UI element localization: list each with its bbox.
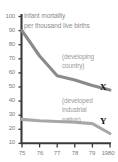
y-tick-label-100: 100 — [0, 13, 15, 19]
y-tick-label-50: 50 — [0, 83, 15, 89]
chart-title-line-2: per thousand live births — [24, 21, 90, 31]
series-x-annotation: (developing country) — [62, 52, 94, 71]
y-tick-label-60: 60 — [0, 69, 15, 75]
x-tick-label-77: 77 — [49, 150, 65, 156]
x-tick-label-75: 75 — [14, 150, 30, 156]
y-tick-label-40: 40 — [0, 97, 15, 103]
y-tick-label-80: 80 — [0, 41, 15, 47]
y-tick-label-20: 20 — [0, 125, 15, 131]
x-tick-label-1980: 1980 — [98, 150, 118, 156]
series-x-annotation-line-1: (developing — [62, 52, 94, 61]
series-y-annotation-line-1: (developed — [62, 96, 93, 105]
chart-title: infant mortality per thousand live birth… — [24, 11, 90, 31]
series-x-annotation-line-2: country) — [62, 61, 94, 70]
series-y-annotation: (developed industrial nation) — [62, 96, 93, 124]
x-tick-label-78: 78 — [67, 150, 83, 156]
y-tick-label-30: 30 — [0, 111, 15, 117]
y-tick-label-10: 10 — [0, 139, 15, 145]
infant-mortality-line-chart: 100 90 80 70 60 50 40 30 20 10 75 76 77 … — [0, 0, 118, 162]
chart-title-line-1: infant mortality — [24, 11, 90, 21]
y-tick-label-70: 70 — [0, 55, 15, 61]
series-y-marker-label: Y — [100, 116, 107, 126]
series-x-marker-label: X — [100, 82, 107, 92]
series-y-annotation-line-3: nation) — [62, 115, 93, 124]
x-tick-label-76: 76 — [32, 150, 48, 156]
y-tick-label-90: 90 — [0, 27, 15, 33]
series-y-annotation-line-2: industrial — [62, 105, 93, 114]
